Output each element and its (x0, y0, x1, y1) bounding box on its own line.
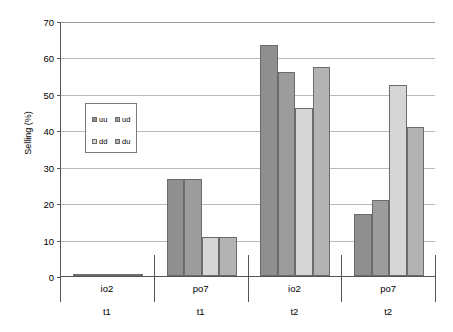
legend-label: uu (99, 115, 107, 124)
legend-item-dd[interactable]: dd (92, 137, 107, 146)
bar-ud[interactable] (372, 200, 390, 277)
bar-group (342, 22, 436, 276)
x-axis-label-primary: po7 (341, 283, 435, 294)
bar-uu[interactable] (167, 179, 185, 276)
legend: uuuddddu (85, 103, 137, 153)
x-axis-label-secondary: t1 (154, 306, 248, 317)
bar-uu[interactable] (73, 274, 91, 276)
legend-swatch-icon (92, 117, 97, 122)
legend-swatch-icon (115, 139, 120, 144)
y-axis-tick-label: 0 (49, 272, 54, 283)
legend-label: ud (122, 115, 130, 124)
y-axis-tick-label: 20 (43, 199, 54, 210)
x-axis-label-primary: io2 (248, 283, 342, 294)
bar-group (249, 22, 343, 276)
y-axis-tick-label: 60 (43, 53, 54, 64)
legend-label: dd (99, 137, 107, 146)
y-axis-tick-label: 40 (43, 126, 54, 137)
x-axis-label-secondary: t1 (60, 306, 154, 317)
legend-label: du (122, 137, 130, 146)
legend-swatch-icon (115, 117, 120, 122)
bar-uu[interactable] (260, 45, 278, 276)
x-axis-category-label: po7t2 (341, 283, 435, 317)
bar-du[interactable] (125, 274, 143, 276)
y-axis-tick-label: 30 (43, 162, 54, 173)
x-axis-category-label: io2t2 (248, 283, 342, 317)
x-axis-label-secondary: t2 (248, 306, 342, 317)
bar-du[interactable] (407, 127, 425, 276)
legend-swatch-icon (92, 139, 97, 144)
bar-dd[interactable] (202, 237, 220, 276)
y-axis-tick-label: 50 (43, 89, 54, 100)
bar-dd[interactable] (295, 108, 313, 276)
x-axis-label-secondary: t2 (341, 306, 435, 317)
bar-ud[interactable] (184, 179, 202, 276)
x-axis-label-primary: po7 (154, 283, 248, 294)
x-axis-category-label: po7t1 (154, 283, 248, 317)
bar-du[interactable] (313, 67, 331, 276)
bar-uu[interactable] (354, 214, 372, 276)
bar-dd[interactable] (389, 85, 407, 276)
bar-dd[interactable] (108, 274, 126, 276)
bar-ud[interactable] (278, 72, 296, 276)
bar-ud[interactable] (90, 274, 108, 276)
x-axis-category-label: io2t1 (60, 283, 154, 317)
legend-item-uu[interactable]: uu (92, 115, 107, 124)
y-axis-title: Selling (%) (23, 63, 33, 203)
y-axis-tick-label: 70 (43, 17, 54, 28)
bar-du[interactable] (219, 237, 237, 276)
legend-item-du[interactable]: du (115, 137, 130, 146)
x-axis-label-primary: io2 (60, 283, 154, 294)
y-axis-tick-label: 10 (43, 235, 54, 246)
category-separator (435, 255, 436, 302)
bar-chart: Selling (%) 010203040506070 io2t1po7t1io… (0, 0, 453, 332)
legend-item-ud[interactable]: ud (115, 115, 130, 124)
bar-group (155, 22, 249, 276)
